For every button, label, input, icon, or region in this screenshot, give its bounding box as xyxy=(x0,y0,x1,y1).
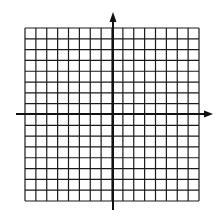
coordinate-plane xyxy=(0,0,222,216)
y-axis-arrow-icon xyxy=(110,12,117,22)
axes xyxy=(16,12,213,210)
x-axis-arrow-icon xyxy=(204,111,213,118)
